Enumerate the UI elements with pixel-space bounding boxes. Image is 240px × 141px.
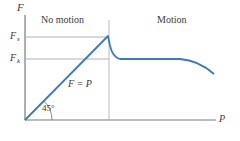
static-friction-symbol: F [10,30,16,41]
x-axis-label: P [219,114,225,124]
diagram-canvas [0,0,240,141]
static-friction-label: Fs [10,31,20,43]
kinetic-friction-subscript: k [17,57,20,65]
friction-diagram: F P No motion Motion Fs Fk F = P 45° [0,0,240,141]
region-label-no-motion: No motion [41,15,84,25]
angle-label: 45° [42,104,55,113]
kinetic-friction-symbol: F [10,52,16,63]
kinetic-friction-label: Fk [10,53,20,65]
region-label-motion: Motion [157,15,186,25]
static-friction-subscript: s [17,35,20,43]
y-axis-label: F [17,2,24,13]
line-equation-label: F = P [68,79,92,89]
